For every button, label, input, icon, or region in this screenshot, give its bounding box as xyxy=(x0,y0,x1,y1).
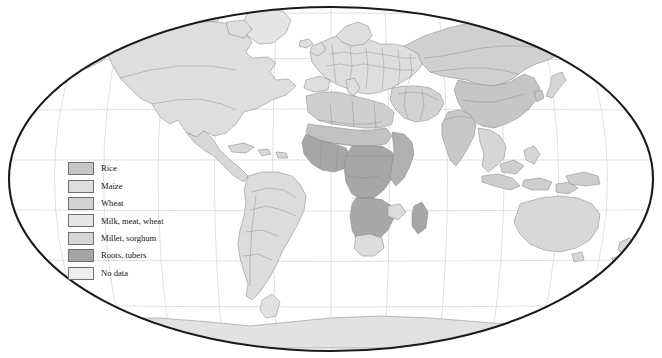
legend-swatch-wheat xyxy=(68,197,94,210)
legend-label-maize: Maize xyxy=(101,182,122,191)
legend-label-wheat: Wheat xyxy=(101,199,123,208)
legend-item-no-data: No data xyxy=(68,264,188,281)
legend-item-wheat: Wheat xyxy=(68,195,188,212)
legend-swatch-millet-sorghum xyxy=(68,232,94,245)
legend-label-milk-meat-wheat: Milk, meat, wheat xyxy=(101,217,164,226)
legend-swatch-maize xyxy=(68,180,94,193)
legend-item-roots-tubers: Roots, tubers xyxy=(68,247,188,264)
legend-swatch-no-data xyxy=(68,267,94,280)
legend-swatch-rice xyxy=(68,162,94,175)
legend-swatch-roots-tubers xyxy=(68,249,94,262)
legend-item-rice: Rice xyxy=(68,160,188,177)
legend-label-rice: Rice xyxy=(101,164,117,173)
region-tasmania xyxy=(572,252,584,262)
map-legend: Rice Maize Wheat Milk, meat, wheat Mille… xyxy=(68,160,188,282)
legend-label-roots-tubers: Roots, tubers xyxy=(101,251,146,260)
legend-swatch-milk-meat-wheat xyxy=(68,214,94,227)
legend-item-maize: Maize xyxy=(68,177,188,194)
world-map-figure: Rice Maize Wheat Milk, meat, wheat Mille… xyxy=(0,0,662,358)
region-arctic-islands xyxy=(166,10,222,23)
legend-item-milk-meat-wheat: Milk, meat, wheat xyxy=(68,212,188,229)
legend-label-millet-sorghum: Millet, sorghum xyxy=(101,234,156,243)
region-antarctica xyxy=(20,316,642,348)
legend-item-millet-sorghum: Millet, sorghum xyxy=(68,230,188,247)
legend-label-no-data: No data xyxy=(101,269,128,278)
